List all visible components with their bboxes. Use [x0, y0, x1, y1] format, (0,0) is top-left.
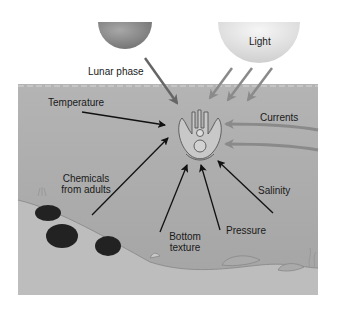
label-pressure: Pressure [226, 225, 266, 236]
label-salinity: Salinity [258, 185, 290, 196]
moon-icon [98, 22, 152, 49]
label-light: Light [249, 36, 271, 47]
label-chemicals-line2: from adults [56, 184, 116, 195]
label-bottom-texture: Bottom texture [165, 231, 205, 253]
label-temperature: Temperature [48, 97, 104, 108]
label-currents: Currents [260, 112, 298, 123]
diagram-canvas [0, 0, 350, 310]
label-chemicals: Chemicals from adults [56, 173, 116, 195]
label-bottom-line1: Bottom [165, 231, 205, 242]
label-lunar-phase: Lunar phase [88, 66, 144, 77]
label-chemicals-line1: Chemicals [56, 173, 116, 184]
label-bottom-line2: texture [165, 242, 205, 253]
